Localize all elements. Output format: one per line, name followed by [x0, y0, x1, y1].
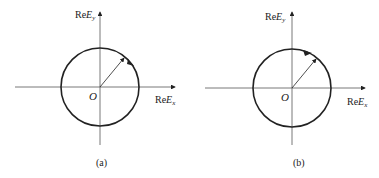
rotation-arrow-icon — [303, 50, 312, 56]
y-label-sub: y — [282, 16, 285, 24]
x-axis-label: ReEx — [155, 95, 175, 107]
polarization-diagram-a — [0, 0, 190, 178]
y-label-sub: y — [92, 14, 95, 22]
x-label-sub: x — [364, 101, 367, 109]
y-label-prefix: Re — [75, 9, 86, 20]
x-label-sub: x — [172, 99, 175, 107]
panel-a: ReEy ReEx O (a) — [0, 0, 190, 178]
origin-label: O — [89, 91, 97, 102]
y-label-prefix: Re — [265, 11, 276, 22]
origin-label: O — [281, 92, 289, 103]
polarization-diagram-b — [190, 0, 379, 178]
x-label-prefix: Re — [347, 96, 358, 107]
panel-b: ReEy ReEx O (b) — [190, 0, 379, 178]
field-vector-arrow — [292, 59, 316, 88]
y-axis-label: ReEy — [75, 10, 95, 22]
rotation-arrow-icon — [127, 59, 134, 66]
field-vector-arrow — [100, 58, 124, 87]
x-axis-label: ReEx — [347, 97, 367, 109]
x-label-prefix: Re — [155, 94, 166, 105]
panel-caption: (a) — [96, 158, 107, 168]
panel-caption: (b) — [293, 158, 305, 168]
y-axis-label: ReEy — [265, 12, 285, 24]
